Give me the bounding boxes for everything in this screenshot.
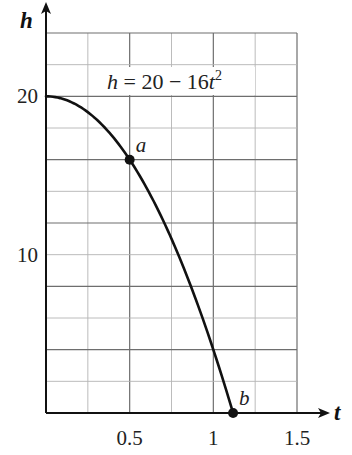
x-tick-label: 1 xyxy=(208,426,219,450)
equation-label: h = 20 − 16t2 xyxy=(107,68,222,94)
point-a xyxy=(125,155,135,165)
y-tick-label: 20 xyxy=(17,84,38,108)
x-tick-label: 0.5 xyxy=(117,426,143,450)
y-tick-label: 10 xyxy=(17,243,38,267)
point-label-a: a xyxy=(136,133,147,157)
y-axis-label: h xyxy=(20,8,33,33)
labels: ab0.511.51020hth = 20 − 16t2 xyxy=(17,8,341,450)
chart: ab0.511.51020hth = 20 − 16t2 xyxy=(0,0,352,455)
x-tick-label: 1.5 xyxy=(284,426,310,450)
point-label-b: b xyxy=(239,386,250,410)
x-axis-label: t xyxy=(334,400,341,425)
